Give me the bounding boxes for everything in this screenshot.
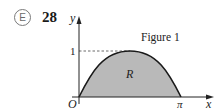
figure-graph: y x O 1 π R Figure 1	[0, 0, 222, 111]
origin-label: O	[68, 97, 77, 111]
region-label: R	[125, 67, 134, 81]
y-axis-label: y	[69, 11, 76, 25]
x-axis-label: x	[205, 97, 212, 111]
x-tick-label: π	[177, 98, 183, 110]
y-axis-arrow-icon	[77, 16, 82, 24]
figure-caption: Figure 1	[141, 31, 180, 44]
y-tick-label: 1	[70, 45, 76, 57]
